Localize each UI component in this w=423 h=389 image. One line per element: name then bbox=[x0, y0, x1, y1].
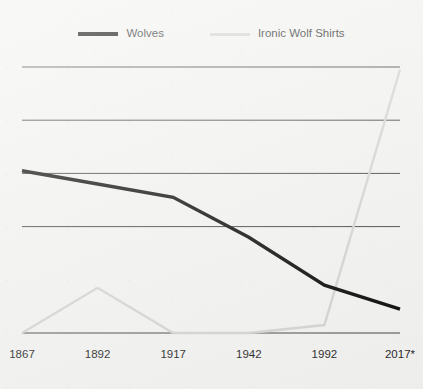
x-tick-label-2017-star: 2017* bbox=[385, 349, 415, 361]
series-line-wolves bbox=[22, 171, 400, 309]
series-line-ironic-wolf-shirts bbox=[22, 70, 400, 333]
x-tick-label-1942: 1942 bbox=[236, 349, 262, 361]
x-tick-label-1867: 1867 bbox=[9, 349, 35, 361]
x-tick-label-1892: 1892 bbox=[85, 349, 111, 361]
polyline-wolves bbox=[22, 171, 400, 309]
x-tick-label-1992: 1992 bbox=[312, 349, 338, 361]
polyline-ironic-wolf-shirts bbox=[22, 70, 400, 333]
x-tick-label-1917: 1917 bbox=[160, 349, 186, 361]
gridlines bbox=[22, 67, 400, 333]
chart-container: Wolves Ironic Wolf Shirts 18671892191719… bbox=[0, 0, 423, 389]
x-axis-labels: 186718921917194219922017* bbox=[0, 349, 423, 365]
plot-area bbox=[0, 0, 423, 389]
